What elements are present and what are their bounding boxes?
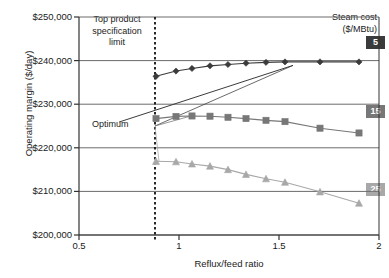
optimum-trend-line xyxy=(119,65,293,122)
data-point-square xyxy=(173,113,179,119)
series-line-15 xyxy=(156,116,359,133)
data-point-diamond xyxy=(225,61,231,67)
data-point-square xyxy=(356,130,362,136)
data-point-square xyxy=(263,117,269,123)
operating-margin-chart: Operating margin ($/day) $250,000 $240,0… xyxy=(0,0,389,278)
data-point-diamond xyxy=(356,59,362,65)
data-point-diamond xyxy=(153,73,159,79)
series-line-5 xyxy=(156,62,359,76)
series-line-25 xyxy=(156,161,359,203)
data-point-square xyxy=(282,119,288,125)
data-point-square xyxy=(225,114,231,120)
data-point-square xyxy=(243,115,249,121)
data-point-square xyxy=(189,113,195,119)
data-point-diamond xyxy=(282,59,288,65)
data-point-square xyxy=(153,115,159,121)
data-point-square xyxy=(317,125,323,131)
data-point-diamond xyxy=(207,63,213,69)
data-point-diamond xyxy=(173,68,179,74)
data-point-diamond xyxy=(317,59,323,65)
data-point-square xyxy=(207,113,213,119)
data-point-diamond xyxy=(189,65,195,71)
plot-area xyxy=(0,0,389,278)
